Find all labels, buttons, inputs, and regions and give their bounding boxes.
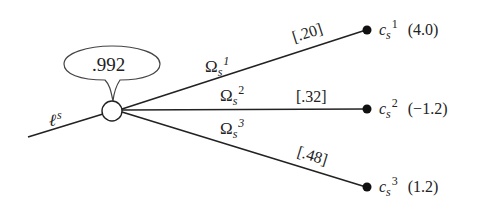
decision-tree-diagram: .992 ℓs Ωs1 Ωs2 Ωs3 [.20] [.32] [.48] cs… (0, 0, 485, 210)
incoming-label: ℓs (49, 112, 62, 129)
incoming-edge (28, 114, 103, 137)
terminal-dot-2 (363, 105, 372, 114)
chance-node-circle (102, 101, 122, 121)
terminal-dot-3 (363, 183, 372, 192)
outcome-3-value: (1.2) (408, 178, 439, 195)
branch-3-event-label: Ωs3 (220, 120, 244, 137)
incoming-label-sup: s (57, 108, 62, 122)
branch-edge-2 (122, 109, 366, 110)
outcome-2-value: (−1.2) (408, 100, 448, 117)
terminal-dot-1 (363, 26, 372, 35)
branch-2-event-label: Ωs2 (220, 87, 244, 104)
incoming-label-main: ℓ (49, 111, 56, 130)
bubble-value: .992 (92, 55, 125, 74)
outcome-2: cs2 (−1.2) (379, 101, 447, 117)
outcome-1: cs1 (4.0) (379, 22, 438, 38)
branch-1-event-label: Ωs1 (205, 58, 229, 75)
branch-2-probability: [.32] (296, 89, 327, 105)
outcome-3: cs3 (1.2) (379, 179, 438, 195)
outcome-1-value: (4.0) (408, 21, 439, 38)
